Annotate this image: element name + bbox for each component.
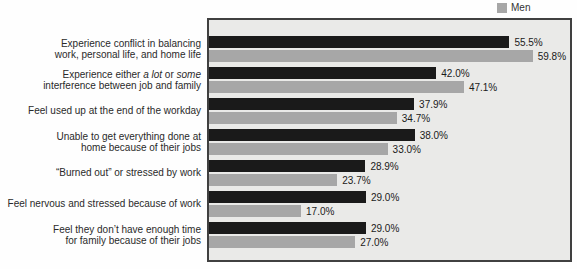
- value-label: 28.9%: [370, 161, 398, 172]
- men-legend-swatch: [497, 3, 507, 13]
- category-label-segment: for family because of their jobs: [65, 235, 201, 246]
- value-label: 37.9%: [419, 99, 447, 110]
- category-label-line: home because of their jobs: [0, 142, 201, 154]
- bar-line: 37.9%: [209, 98, 570, 110]
- men-bar: [209, 81, 464, 93]
- category-label-line: “Burned out” or stressed by work: [0, 167, 201, 179]
- category-label-segment: Feel used up at the end of the workday: [28, 105, 201, 116]
- men-legend-label: Men: [511, 2, 530, 13]
- bar-line: 59.8%: [209, 50, 570, 62]
- category-label: “Burned out” or stressed by work: [0, 167, 209, 179]
- bar-line: 47.1%: [209, 81, 570, 93]
- bar-group: 28.9%23.7%: [209, 160, 570, 186]
- bar-line: 27.0%: [209, 236, 570, 248]
- chart-row: Feel used up at the end of the workday37…: [0, 98, 570, 124]
- category-label-line: Feel they don’t have enough time: [0, 224, 201, 236]
- category-label-line: Unable to get everything done at: [0, 131, 201, 143]
- bar-line: 55.5%: [209, 36, 570, 48]
- value-label: 47.1%: [469, 82, 497, 93]
- category-label-segment: Experience either: [63, 69, 144, 80]
- category-label: Feel used up at the end of the workday: [0, 105, 209, 117]
- men-bar: [209, 236, 355, 248]
- men-bar: [209, 143, 388, 155]
- bar-line: 38.0%: [209, 129, 570, 141]
- chart-row: Feel nervous and stressed because of wor…: [0, 191, 570, 217]
- category-label-line: Experience conflict in balancing: [0, 38, 201, 50]
- value-label: 55.5%: [514, 37, 542, 48]
- bar-line: 34.7%: [209, 112, 570, 124]
- men-bar: [209, 205, 301, 217]
- category-label-line: Feel used up at the end of the workday: [0, 105, 201, 117]
- category-label-segment: Unable to get everything done at: [56, 131, 201, 142]
- bar-group: 37.9%34.7%: [209, 98, 570, 124]
- bar-chart-figure: Men Experience conflict in balancingwork…: [0, 0, 577, 269]
- bar-line: 29.0%: [209, 191, 570, 203]
- category-label: Unable to get everything done athome bec…: [0, 131, 209, 154]
- dark-bar: [209, 67, 436, 79]
- category-label-segment: some: [177, 69, 201, 80]
- category-label-line: Experience either a lot or some: [0, 69, 201, 81]
- dark-bar: [209, 191, 366, 203]
- bar-rows: Experience conflict in balancingwork, pe…: [0, 20, 570, 260]
- chart-row: Experience conflict in balancingwork, pe…: [0, 36, 570, 62]
- value-label: 23.7%: [342, 175, 370, 186]
- dark-bar: [209, 36, 509, 48]
- dark-bar: [209, 129, 415, 141]
- category-label-segment: Experience conflict in balancing: [61, 38, 201, 49]
- men-bar: [209, 174, 337, 186]
- value-label: 38.0%: [420, 130, 448, 141]
- category-label: Feel they don’t have enough timefor fami…: [0, 224, 209, 247]
- category-label-segment: home because of their jobs: [81, 142, 201, 153]
- bar-line: 17.0%: [209, 205, 570, 217]
- category-label-line: interference between job and family: [0, 80, 201, 92]
- category-label-segment: Feel nervous and stressed because of wor…: [8, 198, 201, 209]
- value-label: 27.0%: [360, 237, 388, 248]
- category-label-segment: interference between job and family: [43, 80, 201, 91]
- category-label-segment: or: [162, 69, 176, 80]
- value-label: 29.0%: [371, 223, 399, 234]
- legend: Men: [497, 2, 530, 13]
- category-label: Experience conflict in balancingwork, pe…: [0, 38, 209, 61]
- bar-line: 33.0%: [209, 143, 570, 155]
- category-label-segment: “Burned out” or stressed by work: [56, 167, 201, 178]
- bar-line: 29.0%: [209, 222, 570, 234]
- value-label: 29.0%: [371, 192, 399, 203]
- category-label: Feel nervous and stressed because of wor…: [0, 198, 209, 210]
- bar-line: 42.0%: [209, 67, 570, 79]
- value-label: 59.8%: [538, 51, 566, 62]
- chart-row: Unable to get everything done athome bec…: [0, 129, 570, 155]
- chart-row: “Burned out” or stressed by work28.9%23.…: [0, 160, 570, 186]
- category-label-line: Feel nervous and stressed because of wor…: [0, 198, 201, 210]
- dark-bar: [209, 160, 365, 172]
- bar-group: 38.0%33.0%: [209, 129, 570, 155]
- bar-group: 55.5%59.8%: [209, 36, 570, 62]
- value-label: 42.0%: [441, 68, 469, 79]
- bar-line: 28.9%: [209, 160, 570, 172]
- value-label: 17.0%: [306, 206, 334, 217]
- category-label-segment: a lot: [143, 69, 162, 80]
- category-label-line: for family because of their jobs: [0, 235, 201, 247]
- bar-line: 23.7%: [209, 174, 570, 186]
- category-label-line: work, personal life, and home life: [0, 49, 201, 61]
- category-label-segment: Feel they don’t have enough time: [53, 224, 201, 235]
- value-label: 34.7%: [402, 113, 430, 124]
- category-label-segment: work, personal life, and home life: [55, 49, 201, 60]
- bar-group: 29.0%27.0%: [209, 222, 570, 248]
- men-bar: [209, 50, 533, 62]
- category-label: Experience either a lot or someinterfere…: [0, 69, 209, 92]
- dark-bar: [209, 98, 414, 110]
- dark-bar: [209, 222, 366, 234]
- bar-group: 42.0%47.1%: [209, 67, 570, 93]
- chart-row: Experience either a lot or someinterfere…: [0, 67, 570, 93]
- men-bar: [209, 112, 397, 124]
- bar-group: 29.0%17.0%: [209, 191, 570, 217]
- value-label: 33.0%: [393, 144, 421, 155]
- chart-row: Feel they don’t have enough timefor fami…: [0, 222, 570, 248]
